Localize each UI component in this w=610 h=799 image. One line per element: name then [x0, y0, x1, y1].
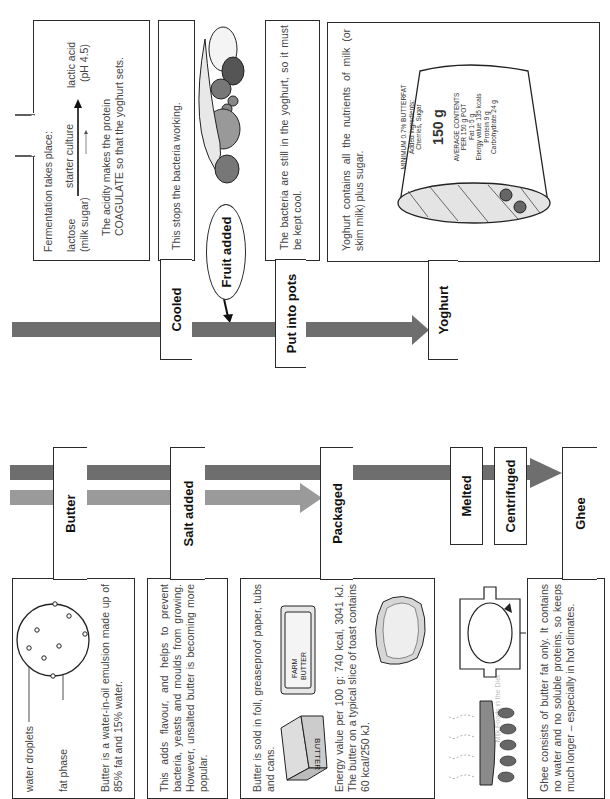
melted-tag: Melted — [450, 447, 483, 545]
reactant-note: (milk sugar) — [78, 197, 91, 252]
acidity-line-1: The acidity makes the protein — [100, 99, 113, 236]
acidity-line-2: COAGULATE so that the yoghurt sets. — [113, 57, 126, 236]
fermentation-stub-tab — [14, 113, 35, 157]
farm-butter-tub-illustration: FARM BUTTER — [277, 598, 323, 698]
salt-added-box: This adds flavour, and helps to prevent … — [147, 578, 228, 799]
yoghurt-arrowhead-icon — [412, 315, 429, 345]
pot-contents-title: AVERAGE CONTENTS — [453, 77, 461, 177]
rotated-page: Milk Foods in the Diet Fermentation take… — [0, 0, 610, 799]
heating-pan-illustration — [452, 691, 522, 791]
put-into-pots-tag: Put into pots — [275, 259, 306, 368]
butter-pack-illustration: BUTTER — [279, 708, 329, 788]
fruit-arrow-icon — [220, 297, 234, 323]
fermentation-title: Fermentation takes place: — [42, 131, 55, 252]
fruit-added-bubble: Fruit added — [206, 204, 246, 300]
cooled-tag: Cooled — [160, 259, 192, 360]
pot-label-top: MINIMUM 0.7% BUTTERFAT Added ingredients… — [400, 77, 498, 177]
salt-added-text: This adds flavour, and helps to prevent … — [158, 584, 210, 792]
butter-text: Butter is a water-in-oil emulsion made u… — [99, 584, 125, 792]
ghee-text: Ghee consists of butter fat only. It con… — [538, 584, 577, 792]
ghee-arrowhead-icon — [530, 458, 562, 488]
toast-illustration — [373, 588, 433, 668]
yoghurt-text: Yoghurt contains all the nutrients of mi… — [340, 29, 366, 251]
put-into-pots-box: The bacteria are still in the yoghurt, s… — [265, 20, 320, 261]
butter-arrowhead-icon — [300, 483, 322, 513]
water-droplets-label: water droplets — [23, 726, 36, 792]
product-note: (pH 4.5) — [78, 44, 91, 82]
svg-text:BUTTER: BUTTER — [300, 652, 307, 680]
butter-tag: Butter — [53, 447, 87, 580]
pot-fat: Fat 1·5 g — [468, 77, 476, 177]
pot-ingredients-title: Added ingredients: — [408, 77, 416, 177]
svg-text:FARM: FARM — [291, 658, 298, 678]
centrifuge-illustration — [454, 579, 528, 679]
pot-butterfat: MINIMUM 0.7% BUTTERFAT — [400, 77, 408, 177]
pot-protein: Protein 9 g — [483, 77, 491, 177]
packaged-box: Butter is sold in foil, greaseproof pape… — [240, 578, 435, 799]
reactant: lactose — [65, 219, 78, 252]
fat-phase-label: fat phase — [57, 749, 70, 792]
pot-carbohydrate: Carbohydrate 24 g — [490, 77, 498, 177]
butter-box: water droplets fat phase Butter is a wat… — [12, 578, 135, 799]
yoghurt-tag: Yoghurt — [428, 260, 458, 360]
fermentation-box: Fermentation takes place: lactose (milk … — [33, 20, 150, 261]
ghee-tag: Ghee — [562, 447, 597, 580]
reaction-arrow-icon — [74, 96, 94, 196]
cooled-box: This stops the bacteria working. — [158, 20, 195, 261]
packaged-tag: Packaged — [320, 447, 353, 580]
fruit-illustration — [195, 19, 255, 189]
pot-contents-per: PER 150 g POT — [460, 77, 468, 177]
pot-ingredients: Cherries, Sugar — [415, 77, 423, 177]
pot-energy: Energy value 135 kcals — [475, 77, 483, 177]
yoghurt-process-bar — [12, 322, 414, 337]
yoghurt-box: Yoghurt contains all the nutrients of mi… — [327, 22, 600, 262]
packaged-text-2: Energy value per 100 g: 740 kcal, 3041 k… — [333, 584, 372, 792]
product: lactic acid — [65, 42, 78, 88]
put-into-pots-text: The bacteria are still in the yoghurt, s… — [278, 25, 304, 250]
pot-weight: 150 g — [429, 77, 447, 177]
salt-added-tag: Salt added — [170, 447, 205, 580]
ghee-box: Ghee consists of butter fat only. It con… — [527, 578, 605, 799]
emulsion-diagram — [17, 588, 89, 728]
packaged-text-1: Butter is sold in foil, greaseproof pape… — [251, 584, 277, 792]
cooled-text: This stops the bacteria working. — [170, 102, 183, 250]
butter-pack-text: BUTTER — [313, 738, 322, 770]
centrifuged-tag: Centrifuged — [494, 447, 527, 545]
